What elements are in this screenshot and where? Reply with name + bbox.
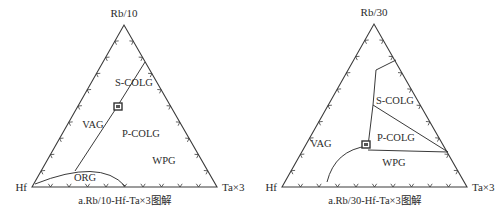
left-vertex-label: Hf xyxy=(15,181,27,193)
left-axis-tick xyxy=(337,89,341,93)
field-label-s-colg: S-COLG xyxy=(376,95,414,106)
right-axis-tick xyxy=(204,171,208,175)
left-axis-tick xyxy=(328,105,332,109)
right-axis-tick xyxy=(454,170,458,174)
field-label-p-colg: P-COLG xyxy=(377,132,415,143)
left-axis-tick xyxy=(300,154,304,158)
ternary-diagram-rb30-hf-ta3: Rb/30HfTa×3S-COLGVAGP-COLGWPGa.Rb/30-Hf-… xyxy=(265,6,495,206)
field-boundary-line xyxy=(327,146,368,182)
field-boundary-line xyxy=(368,150,448,152)
right-axis-tick xyxy=(157,90,161,94)
right-axis-tick xyxy=(129,41,133,45)
apex-label: Rb/30 xyxy=(361,6,388,18)
right-axis-tick xyxy=(435,138,439,142)
tectonic-discrimination-diagrams: Rb/10HfTa×3S-COLGVAGP-COLGWPGORGa.Rb/10-… xyxy=(0,0,501,211)
left-axis-tick xyxy=(106,57,110,61)
left-axis-tick xyxy=(115,41,119,45)
right-axis-tick xyxy=(407,89,411,93)
left-axis-tick xyxy=(87,90,91,94)
right-axis-tick xyxy=(176,122,180,126)
right-axis-tick xyxy=(389,56,393,60)
field-boundary-line xyxy=(373,105,448,152)
right-vertex-label: Ta×3 xyxy=(472,181,495,193)
right-axis-tick xyxy=(426,122,430,126)
left-axis-tick xyxy=(346,73,350,77)
triangle-frame xyxy=(32,25,217,187)
field-label-wpg: WPG xyxy=(152,155,176,166)
sample-marker-fill xyxy=(364,143,368,146)
left-vertex-label: Hf xyxy=(265,181,277,193)
right-axis-tick xyxy=(185,138,189,142)
field-label-vag: VAG xyxy=(82,119,104,130)
left-axis-tick xyxy=(365,40,369,44)
diagram-caption: a.Rb/10-Hf-Ta×3图解 xyxy=(78,194,172,206)
left-axis-tick xyxy=(60,138,64,142)
field-label-org: ORG xyxy=(74,172,97,183)
left-axis-tick xyxy=(356,56,360,60)
right-axis-tick xyxy=(379,40,383,44)
left-axis-tick xyxy=(96,73,100,77)
left-axis-tick xyxy=(41,171,45,175)
sample-marker-fill xyxy=(116,105,120,108)
right-axis-tick xyxy=(139,57,143,61)
field-label-s-colg: S-COLG xyxy=(115,77,153,88)
right-axis-tick xyxy=(445,154,449,158)
field-label-vag: VAG xyxy=(310,138,332,149)
right-axis-tick xyxy=(167,106,171,110)
left-axis-tick xyxy=(78,106,82,110)
right-axis-tick xyxy=(398,73,402,77)
diagram-caption: a.Rb/30-Hf-Ta×3图解 xyxy=(328,194,422,206)
right-axis-tick xyxy=(417,105,421,109)
field-label-p-colg: P-COLG xyxy=(122,128,160,139)
apex-label: Rb/10 xyxy=(111,7,138,19)
left-axis-tick xyxy=(291,170,295,174)
left-axis-tick xyxy=(69,122,73,126)
left-axis-tick xyxy=(50,154,54,158)
right-vertex-label: Ta×3 xyxy=(222,181,245,193)
ternary-diagram-rb10-hf-ta3: Rb/10HfTa×3S-COLGVAGP-COLGWPGORGa.Rb/10-… xyxy=(15,7,245,206)
right-axis-tick xyxy=(195,154,199,158)
left-axis-tick xyxy=(319,122,323,126)
field-label-wpg: WPG xyxy=(382,157,406,168)
